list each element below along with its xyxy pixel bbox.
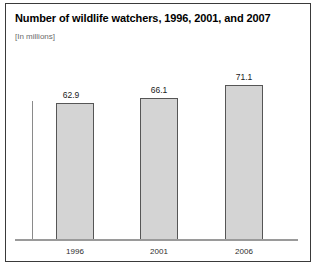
- bar-value-label: 71.1: [224, 72, 264, 82]
- chart-figure: Number of wildlife watchers, 1996, 2001,…: [5, 3, 311, 262]
- y-axis-line: [32, 101, 33, 240]
- bar-2006: [225, 85, 263, 240]
- bar-2001: [140, 98, 178, 240]
- x-tick-label-1996: 1996: [51, 247, 99, 256]
- bar-value-label: 66.1: [139, 85, 179, 95]
- x-axis-baseline: [15, 239, 298, 241]
- x-tick-label-2006: 2006: [220, 247, 268, 256]
- x-tick-label-2001: 2001: [135, 247, 183, 256]
- bar-1996: [56, 103, 94, 240]
- plot-area: 62.9 1996 66.1 2001 71.1 2006: [6, 4, 311, 262]
- bar-value-label: 62.9: [51, 90, 91, 100]
